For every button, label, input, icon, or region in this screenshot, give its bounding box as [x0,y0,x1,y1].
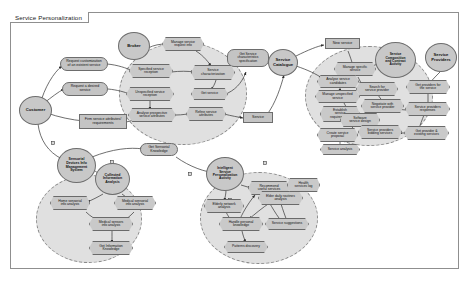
action-handle-personal-knowledge-label: Handle personal knowledge [220,221,262,228]
action-elderly-network-analysis[interactable]: Elderly network analysis [204,199,244,213]
action-get-service-label: Get service [192,92,227,95]
action-get-providers-for-the-service[interactable]: Get providers for the service [406,80,450,94]
action-medical-sensors-info-analysis[interactable]: Medical sensors info analysis [89,217,133,231]
action-manage-service-request-info-label: Manage service request info [163,41,203,48]
object-service[interactable]: Service [243,112,273,123]
action-refine-service-attributes-label: Refine service attributes [187,111,225,118]
action-home-sensorial-info-analysis[interactable]: Home sensorial info analysis [50,196,90,210]
action-software-service-design-label: Software service design [341,117,379,124]
action-get-providers-for-the-service-label: Get providers for the service [407,84,449,91]
action-elder-daily-routines-analysis-label: Elder daily routines analysis [259,195,302,202]
action-refine-service-attributes[interactable]: Refine service attributes [186,107,226,121]
object-get-sensorial-knowledge-label: Get Sensorial Knowledge [141,146,177,153]
action-analyse-prospective-service-attributes[interactable]: Analyse prospective service attributes [128,108,176,122]
object-firm-service-attributes-requirements[interactable]: Firm service attributes/ requirements [79,114,127,129]
action-create-service-proposal-label: Create service proposal [318,132,357,139]
actor-intelligent-service-personalization-activity[interactable]: Intelligent Service Personalization Acti… [206,157,244,191]
action-manage-unspecified-service-label: Manage unspecified service [316,93,359,100]
action-medical-sensorial-info-analysis[interactable]: Medical sensorial info analysis [114,196,156,210]
action-health-services-log[interactable]: Health services log [287,178,320,192]
object-request-a-desired-service[interactable]: Request a desired service [62,82,108,96]
action-unspecified-service-reception-label: Unspecified service reception [127,91,173,98]
action-service-analysis-label: Service analysis [321,148,359,151]
action-search-for-service-provider-label: Search for service provider [357,86,397,93]
action-manage-specific-service[interactable]: Manage specific service [334,62,376,76]
diagram-title: Service Personalization [10,12,89,23]
action-software-service-design[interactable]: Software service design [340,113,380,127]
object-service-label: Service [244,116,272,120]
action-search-for-service-provider[interactable]: Search for service provider [356,82,398,96]
action-analyse-service-candidates[interactable]: Analyse service candidates [317,75,359,88]
action-specified-service-reception-label: Specified service reception [130,68,172,75]
action-service-providers-responses[interactable]: Service providers responses [405,102,450,116]
action-service-providers-responses-label: Service providers responses [406,106,449,113]
object-request-customization-label: Request customization of an existent ser… [61,60,107,67]
action-patterns-discovery-label: Patterns discovery [225,245,267,248]
actor-sensorial-devices-label: Sensorial Devices Info Management System [58,158,95,172]
object-firm-service-attributes-label: Firm service attributes/ requirements [80,118,126,125]
action-health-services-log-label: Health services log [288,182,319,189]
action-analyse-prospective-label: Analyse prospective service attributes [129,112,175,119]
action-get-provider-existing-services-label: Get provider & existing services [405,130,448,137]
actor-customer-label: Customer [20,108,51,112]
action-unspecified-service-reception[interactable]: Unspecified service reception [126,87,174,101]
action-elder-daily-routines-analysis[interactable]: Elder daily routines analysis [258,191,303,205]
diagram-canvas: Service Personalization [0,0,471,288]
object-get-sensorial-knowledge[interactable]: Get Sensorial Knowledge [140,143,178,156]
action-create-service-proposal[interactable]: Create service proposal [317,128,358,142]
action-home-sensorial-info-analysis-label: Home sensorial info analysis [51,200,89,207]
action-service-suggestions-label: Service suggestions [266,222,308,225]
action-service-suggestions[interactable]: Service suggestions [265,218,309,230]
actor-service-composition-label: Service Composition and Contract Activit… [376,53,415,66]
actor-service-providers[interactable]: Service Providers [425,43,457,72]
actor-service-catalogue[interactable]: Service Catalogue [268,49,298,76]
actor-broker[interactable]: Broker [118,32,150,60]
actor-collected-information-analysis[interactable]: Collected Information Analysis [95,163,130,195]
object-new-service-label: New service [326,42,359,46]
actor-sensorial-devices-info-management-system[interactable]: Sensorial Devices Info Management System [57,148,96,183]
action-get-provider-and-existing-services[interactable]: Get provider & existing services [404,126,449,140]
action-patterns-discovery[interactable]: Patterns discovery [224,241,268,253]
actor-broker-label: Broker [119,44,149,48]
action-service-characterization-label: Service characterization [192,69,234,76]
action-elderly-network-analysis-label: Elderly network analysis [205,203,243,210]
action-get-information-knowledge-label: Get Information Knowledge [90,245,132,252]
action-medical-sensorial-info-analysis-label: Medical sensorial info analysis [115,200,155,207]
action-specified-service-reception[interactable]: Specified service reception [129,64,173,78]
actor-service-providers-label: Service Providers [426,53,456,62]
object-new-service[interactable]: New service [325,38,360,49]
object-get-service-characteristics-label: Get Service characteristics specificatio… [228,53,268,63]
action-service-characterization[interactable]: Service characterization [191,65,235,80]
actor-collected-information-analysis-label: Collected Information Analysis [96,174,129,185]
object-get-service-characteristics-specification[interactable]: Get Service characteristics specificatio… [227,49,269,67]
action-manage-service-request-info[interactable]: Manage service request info [162,37,204,51]
action-get-service[interactable]: Get service [191,88,228,100]
action-handle-personal-knowledge[interactable]: Handle personal knowledge [219,217,263,231]
action-service-providers-bidding-services[interactable]: Service providers bidding services [358,125,402,139]
actor-service-composition-and-contract-activity[interactable]: Service Composition and Contract Activit… [375,42,416,78]
actor-customer[interactable]: Customer [19,96,52,125]
object-request-customization-of-existent-service[interactable]: Request customization of an existent ser… [60,57,108,71]
action-manage-unspecified-service[interactable]: Manage unspecified service [315,90,360,103]
actor-service-catalogue-label: Service Catalogue [269,58,297,67]
action-analyse-service-candidates-label: Analyse service candidates [318,78,358,85]
action-service-analysis[interactable]: Service analysis [320,144,360,155]
action-negotiate-with-service-provider-label: Negotiate with service provider [362,103,403,110]
action-negotiate-with-service-provider[interactable]: Negotiate with service provider [361,99,404,113]
action-manage-specific-service-label: Manage specific service [335,66,375,73]
actor-intelligent-activity-label: Intelligent Service Personalization Acti… [207,167,243,180]
action-medical-sensors-info-analysis-label: Medical sensors info analysis [90,221,132,228]
action-recommend-useful-services-label: Recommend useful services [249,185,289,192]
object-request-desired-service-label: Request a desired service [63,85,107,92]
action-service-providers-bidding-label: Service providers bidding services [359,129,401,136]
action-get-information-knowledge[interactable]: Get Information Knowledge [89,241,133,255]
